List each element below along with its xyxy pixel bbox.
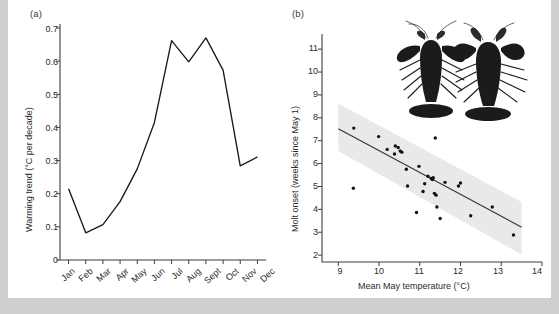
panel-b-data-point-4: [393, 152, 396, 155]
panel-b-data-point-18: [432, 176, 435, 179]
panel-b-data-point-0: [352, 126, 355, 129]
panel-b-data-point-6: [396, 146, 399, 149]
panel-a-plot: [8, 0, 280, 298]
panel-b-data-point-27: [469, 214, 472, 217]
panel-a-warming-trend: (a) Warming trend (°C per decade) 0 0.1 …: [8, 0, 280, 298]
panel-b-data-point-9: [405, 168, 408, 171]
lobster-left-icon: [397, 21, 465, 118]
panel-b-data-point-25: [457, 184, 460, 187]
panel-b-data-point-11: [415, 211, 418, 214]
panel-b-data-point-23: [438, 217, 441, 220]
panel-a-axes: [60, 24, 266, 260]
panel-b-data-point-10: [406, 184, 409, 187]
panel-b-data-point-13: [421, 190, 424, 193]
panel-b-data-point-2: [377, 135, 380, 138]
panel-b-data-point-22: [435, 205, 438, 208]
panel-b-data-point-12: [417, 165, 420, 168]
panel-b-data-point-14: [423, 182, 426, 185]
figure-root: (a) Warming trend (°C per decade) 0 0.1 …: [8, 0, 551, 298]
panel-b-molt-onset: (b) Molt onset (weeks since May 1) Mean …: [280, 0, 551, 298]
panel-b-data-point-26: [459, 181, 462, 184]
panel-b-data-point-20: [434, 136, 437, 139]
panel-b-data-point-21: [434, 193, 437, 196]
panel-b-data-point-1: [352, 187, 355, 190]
panel-b-data-point-5: [394, 144, 397, 147]
panel-b-data-point-24: [443, 181, 446, 184]
panel-b-data-point-15: [426, 174, 429, 177]
panel-a-trend-line: [69, 38, 258, 233]
panel-b-data-point-29: [512, 233, 515, 236]
panel-b-data-point-28: [491, 205, 494, 208]
panel-b-data-point-8: [400, 150, 403, 153]
lobster-right-icon: [452, 23, 527, 121]
panel-b-data-point-3: [385, 148, 388, 151]
lobster-photo-inset: [384, 18, 544, 123]
